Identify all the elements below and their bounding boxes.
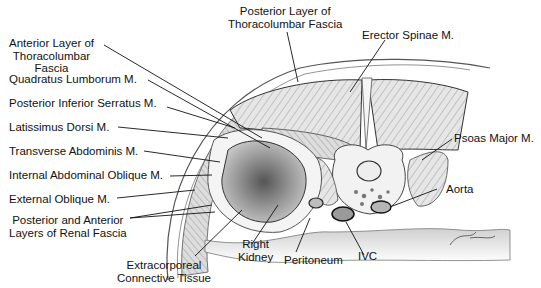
label-latissimus-dorsi: Latissimus Dorsi M. <box>9 121 109 134</box>
label-external-oblique: External Oblique M. <box>9 193 110 206</box>
label-anterior-layer-tlf: Anterior Layer of Thoracolumbar Fascia <box>9 37 94 75</box>
label-renal-fascia: Posterior and Anterior Layers of Renal F… <box>9 214 127 239</box>
label-right-kidney: Right Kidney <box>238 238 273 263</box>
label-internal-oblique: Internal Abdominal Oblique M. <box>9 169 163 182</box>
anatomy-figure: Posterior Layer of Thoracolumbar Fascia … <box>0 0 541 288</box>
label-ivc: IVC <box>358 250 377 263</box>
label-psoas-major: Psoas Major M. <box>454 132 534 145</box>
erector-spinae-right <box>368 80 468 151</box>
label-transverse-abdominis: Transverse Abdominis M. <box>9 145 138 158</box>
label-erector-spinae: Erector Spinae M. <box>362 29 454 42</box>
ivc-shape <box>332 207 354 221</box>
spinal-cord <box>357 161 381 181</box>
renal-vessel <box>309 198 323 208</box>
label-posterior-layer-tlf: Posterior Layer of Thoracolumbar Fascia <box>228 5 342 30</box>
label-posterior-inferior-serratus: Posterior Inferior Serratus M. <box>9 97 157 110</box>
aorta-shape <box>371 201 391 213</box>
label-extracorporeal-tissue: Extracorporeal Connective Tissue <box>117 259 211 284</box>
label-aorta: Aorta <box>446 183 474 196</box>
label-peritoneum: Peritoneum <box>284 254 343 267</box>
label-quadratus-lumborum: Quadratus Lumborum M. <box>9 73 137 86</box>
